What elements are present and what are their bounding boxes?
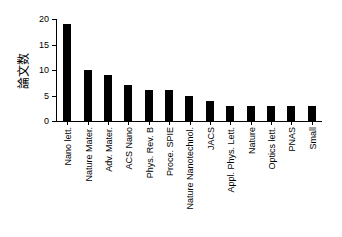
x-tick-mark [149, 122, 150, 125]
y-tick-mark [52, 19, 56, 20]
x-tick-mark [108, 122, 109, 125]
x-axis-label-text: Phys. Rev. B [145, 127, 155, 178]
y-tick-mark [52, 45, 56, 46]
x-axis-label-text: Nature [247, 127, 257, 154]
x-axis-label-slot: ACS Nano [118, 127, 138, 235]
bar-slot [139, 19, 159, 121]
x-axis-label-slot: Nature [240, 127, 260, 235]
y-tick-label-wrap: 10 [28, 70, 49, 71]
bar-chart: 論文数 05101520 Nano lett.Nature Mater.Adv.… [0, 0, 342, 237]
bar [308, 106, 316, 121]
bar-slot [281, 19, 301, 121]
bar [63, 24, 71, 121]
y-tick-label: 20 [28, 15, 49, 24]
x-axis-label-slot: Phys. Rev. B [139, 127, 159, 235]
x-axis-label-slot: Adv. Mater. [98, 127, 118, 235]
bar-slot [302, 19, 322, 121]
bar [84, 70, 92, 121]
bar-slot [159, 19, 179, 121]
x-tick-mark [128, 122, 129, 125]
x-axis-label-slot: Optics lett. [261, 127, 281, 235]
y-tick-label-wrap: 0 [28, 121, 49, 122]
bar-slot [77, 19, 97, 121]
x-tick-mark [291, 122, 292, 125]
x-axis-label-text: Nano lett. [63, 127, 73, 166]
bar [185, 96, 193, 122]
y-tick-label: 15 [28, 40, 49, 49]
x-axis-labels: Nano lett.Nature Mater.Adv. Mater.ACS Na… [57, 127, 322, 235]
bar-slot [57, 19, 77, 121]
y-tick-label-wrap: 20 [28, 19, 49, 20]
x-axis-label-text: Appl. Phys. Lett. [226, 127, 236, 193]
plot-area [57, 19, 322, 121]
x-axis-label-text: Nature Nanotechnol. [185, 127, 195, 210]
bar [165, 90, 173, 121]
x-axis-label-text: JACS [206, 127, 216, 150]
bar-slot [98, 19, 118, 121]
bar [247, 106, 255, 121]
x-axis-label-slot: JACS [200, 127, 220, 235]
bar-slot [200, 19, 220, 121]
x-axis-label-slot: Appl. Phys. Lett. [220, 127, 240, 235]
x-tick-mark [312, 122, 313, 125]
x-tick-mark [230, 122, 231, 125]
x-axis-label-slot: Proce. SPIE [159, 127, 179, 235]
x-axis-label-slot: Nature Nanotechnol. [179, 127, 199, 235]
y-tick-label-wrap: 15 [28, 45, 49, 46]
y-tick-label-wrap: 5 [28, 96, 49, 97]
y-tick-label: 5 [28, 91, 49, 100]
x-tick-mark [88, 122, 89, 125]
y-tick-mark [52, 121, 56, 122]
bar-slot [240, 19, 260, 121]
y-tick-label: 0 [28, 117, 49, 126]
x-axis-label-slot: Small [302, 127, 322, 235]
bar-slot [261, 19, 281, 121]
x-axis-label-text: Nature Mater. [84, 127, 94, 182]
bar [267, 106, 275, 121]
bar [145, 90, 153, 121]
bar [206, 101, 214, 121]
x-tick-mark [190, 122, 191, 125]
bar-slot [118, 19, 138, 121]
x-tick-mark [271, 122, 272, 125]
x-axis-label-slot: Nano lett. [57, 127, 77, 235]
bar-slot [220, 19, 240, 121]
y-tick-label: 10 [28, 66, 49, 75]
bar [104, 75, 112, 121]
bar [124, 85, 132, 121]
x-axis-label-slot: Nature Mater. [77, 127, 97, 235]
x-tick-mark [169, 122, 170, 125]
x-axis-label-text: Proce. SPIE [165, 127, 175, 176]
y-tick-mark [52, 96, 56, 97]
x-tick-mark [210, 122, 211, 125]
bar-slot [179, 19, 199, 121]
bar [226, 106, 234, 121]
x-axis-label-text: Small [308, 127, 318, 150]
x-axis-label-text: ACS Nano [124, 127, 134, 170]
x-axis-label-text: Optics lett. [267, 127, 277, 170]
x-tick-mark [67, 122, 68, 125]
x-axis-label-slot: PNAS [281, 127, 301, 235]
bar [287, 106, 295, 121]
x-tick-mark [251, 122, 252, 125]
x-axis-label-text: Adv. Mater. [104, 127, 114, 172]
x-axis-label-text: PNAS [287, 127, 297, 152]
y-tick-mark [52, 70, 56, 71]
